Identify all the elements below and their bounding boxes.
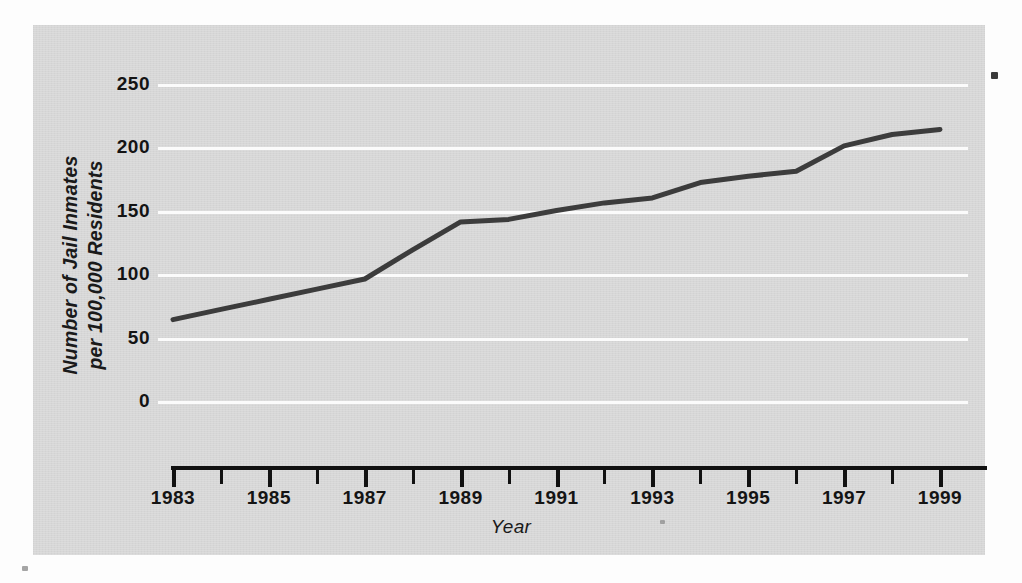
x-axis-tick-mark — [603, 470, 606, 484]
x-axis-tick-mark — [651, 470, 655, 487]
x-axis-tick-label: 1989 — [416, 487, 506, 509]
x-axis-tick-mark — [556, 470, 560, 487]
x-axis-tick-mark — [843, 470, 847, 487]
x-axis-tick-mark — [364, 470, 368, 487]
x-axis-tick-label: 1995 — [703, 487, 793, 509]
scan-artifact-mark — [22, 566, 28, 571]
x-axis-tick-mark — [268, 470, 272, 487]
x-axis-tick-mark — [460, 470, 464, 487]
x-axis-tick-mark — [316, 470, 319, 484]
x-axis-tick-label: 1987 — [320, 487, 410, 509]
x-axis-tick-mark — [508, 470, 511, 484]
x-axis-tick-mark — [795, 470, 798, 484]
x-axis-title: Year — [0, 516, 1022, 538]
x-axis-tick-mark — [172, 470, 176, 487]
x-axis-tick-label: 1991 — [512, 487, 602, 509]
x-axis-tick-mark — [412, 470, 415, 484]
x-axis-tick-label: 1997 — [799, 487, 889, 509]
x-axis-tick-mark — [220, 470, 223, 484]
x-axis-tick-label: 1985 — [224, 487, 314, 509]
x-axis-tick-label: 1983 — [128, 487, 218, 509]
line-chart: 050100150200250 Number of Jail Inmates p… — [0, 0, 1022, 583]
x-axis-tick-mark — [699, 470, 702, 484]
x-axis-tick-mark — [747, 470, 751, 487]
x-axis-tick-label: 1993 — [607, 487, 697, 509]
x-axis-tick-mark — [891, 470, 894, 484]
x-axis-tick-label: 1999 — [895, 487, 985, 509]
x-axis-line — [171, 466, 987, 470]
scanned-page: 050100150200250 Number of Jail Inmates p… — [0, 0, 1022, 583]
scan-artifact-mark — [991, 72, 998, 79]
scan-artifact-mark — [660, 520, 665, 524]
x-axis-tick-mark — [939, 470, 943, 487]
